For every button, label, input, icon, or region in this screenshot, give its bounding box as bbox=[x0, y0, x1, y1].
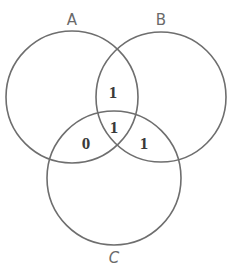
set-a-circle bbox=[6, 31, 138, 163]
region-ac-value: 0 bbox=[82, 134, 91, 153]
set-a-label: A bbox=[67, 11, 78, 29]
set-b-label: B bbox=[156, 11, 166, 29]
region-ab-value: 1 bbox=[109, 83, 118, 102]
region-abc-value: 1 bbox=[110, 118, 119, 137]
venn-diagram: A B C 1 1 0 1 bbox=[0, 0, 231, 268]
set-c-label: C bbox=[109, 249, 120, 267]
region-bc-value: 1 bbox=[140, 134, 149, 153]
